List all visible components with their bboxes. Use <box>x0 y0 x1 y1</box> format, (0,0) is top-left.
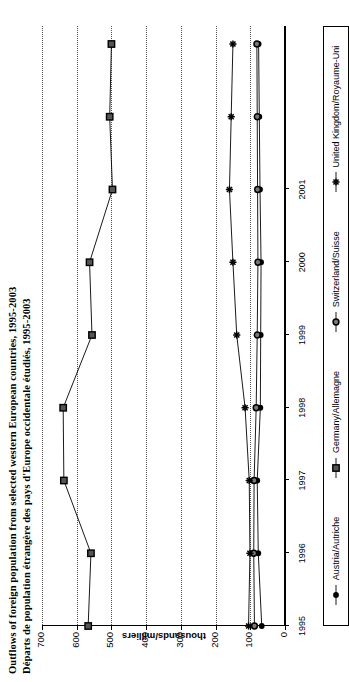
asterisk-marker <box>330 171 342 193</box>
year-tick <box>285 261 289 262</box>
data-point <box>226 186 233 193</box>
data-point <box>60 405 66 411</box>
data-point <box>252 623 258 629</box>
value-tick-label: 500 <box>104 632 115 662</box>
series-line <box>63 44 112 626</box>
value-tick-label: 0 <box>278 632 289 662</box>
chart-title-french: Départs de population étrangère des pays… <box>20 8 34 674</box>
chart-title-english: Outflows of foreign population from sele… <box>6 8 20 674</box>
year-tick-label: 1995 <box>297 606 307 646</box>
data-point <box>228 113 235 120</box>
data-point <box>241 404 248 411</box>
data-point <box>254 332 260 338</box>
year-tick-label: 1999 <box>297 315 307 355</box>
data-point <box>254 41 260 47</box>
data-point <box>229 259 236 266</box>
legend-label: Switzerland/Suisse <box>331 231 341 307</box>
data-point <box>332 179 339 186</box>
value-tick <box>146 626 147 630</box>
filled-circle-marker <box>330 584 342 606</box>
series-germany <box>60 41 116 629</box>
value-axis-title: thousands/milliers <box>122 631 206 642</box>
data-point <box>86 259 92 265</box>
filled-square-marker <box>330 457 342 479</box>
value-tick <box>42 626 43 630</box>
data-point <box>246 477 253 484</box>
data-point <box>254 114 260 120</box>
data-point <box>61 477 67 483</box>
legend-label: United Kingdom/Royaume-Uni <box>331 46 341 168</box>
data-point <box>106 114 112 120</box>
data-point <box>108 41 114 47</box>
legend-item-switzerland[interactable]: Switzerland/Suisse <box>330 231 342 333</box>
data-point <box>333 319 339 325</box>
value-tick <box>181 626 182 630</box>
value-tick-label: 100 <box>243 632 254 662</box>
data-point <box>109 186 115 192</box>
plot-area: 1995199619971998199920002001 01002003004… <box>42 26 285 626</box>
year-tick-label: 1996 <box>297 533 307 573</box>
data-point <box>246 550 253 557</box>
legend-item-austria[interactable]: Austria/Autriche <box>330 517 342 607</box>
chart-title-block: Outflows of foreign population from sele… <box>6 8 34 674</box>
value-tick-label: 600 <box>70 632 81 662</box>
gridline <box>285 26 286 626</box>
legend-item-germany[interactable]: Germany/Allemagne <box>330 371 342 479</box>
value-tick <box>216 626 217 630</box>
year-tick-label: 2001 <box>297 170 307 210</box>
data-point <box>89 332 95 338</box>
data-point <box>259 623 265 629</box>
year-tick-label: 1997 <box>297 461 307 501</box>
year-tick <box>285 189 289 190</box>
year-tick <box>285 407 289 408</box>
series-layer <box>42 26 285 626</box>
legend-item-united kingdom[interactable]: United Kingdom/Royaume-Uni <box>330 46 342 194</box>
year-tick <box>285 480 289 481</box>
value-tick-label: 200 <box>209 632 220 662</box>
data-point <box>333 592 339 598</box>
data-point <box>229 40 236 47</box>
plot-inner: 1995199619971998199920002001 01002003004… <box>42 26 285 626</box>
data-point <box>255 187 261 193</box>
data-point <box>85 623 91 629</box>
data-point <box>333 465 339 471</box>
value-tick <box>77 626 78 630</box>
year-tick-label: 2000 <box>297 242 307 282</box>
data-point <box>233 331 240 338</box>
value-tick <box>111 626 112 630</box>
data-point <box>88 550 94 556</box>
value-tick-label: 700 <box>35 632 46 662</box>
data-point <box>253 405 259 411</box>
year-tick-label: 1998 <box>297 388 307 428</box>
legend-label: Austria/Autriche <box>331 517 341 581</box>
series-united kingdom <box>226 40 254 629</box>
data-point <box>245 622 252 629</box>
value-tick <box>285 626 286 630</box>
chart-legend: Austria/AutricheGermany/AllemagneSwitzer… <box>323 26 349 626</box>
year-tick <box>285 334 289 335</box>
open-circle-marker <box>330 311 342 333</box>
data-point <box>255 259 261 265</box>
legend-label: Germany/Allemagne <box>331 371 341 453</box>
year-tick <box>285 552 289 553</box>
